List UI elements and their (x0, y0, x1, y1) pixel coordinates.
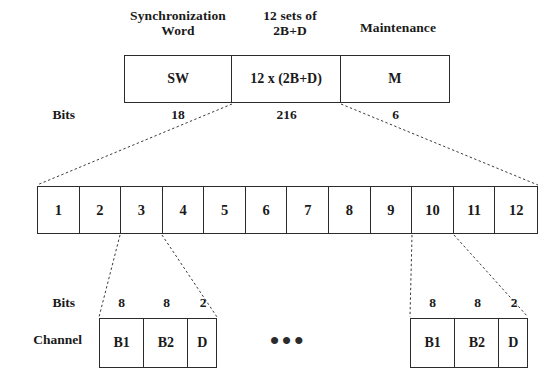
channel-cell-4: 4 (163, 187, 205, 233)
subframe-left-bits-b1: 8 (99, 295, 144, 311)
subframe-right: B1 B2 D (410, 318, 528, 368)
channel-cell-2: 2 (80, 187, 122, 233)
subframe-right-bits-d: 2 (500, 295, 528, 311)
channel-cell-3: 3 (121, 187, 163, 233)
bits-count-2bd: 216 (232, 107, 341, 123)
subframe-left-bits-d: 2 (189, 295, 217, 311)
channel-cell-12: 12 (495, 187, 537, 233)
subframe-left-cell-b1: B1 (100, 319, 144, 367)
label-bits-top: Bits (0, 107, 75, 123)
subframe-left-cell-b2: B2 (144, 319, 188, 367)
channel-cell-7: 7 (287, 187, 329, 233)
subframe-left-cell-d: D (188, 319, 216, 367)
bits-count-sw: 18 (124, 107, 232, 123)
label-12-sets-of-2bd: 12 sets of 2B+D (238, 8, 342, 38)
frame-cell-sw: SW (125, 56, 232, 102)
subframe-right-cell-b1: B1 (411, 319, 455, 367)
channel-cell-8: 8 (329, 187, 371, 233)
subframe-right-bits-b2: 8 (455, 295, 500, 311)
top-frame-row: SW 12 x (2B+D) M (124, 55, 450, 103)
subframe-right-cell-b2: B2 (455, 319, 499, 367)
channel-cell-11: 11 (454, 187, 496, 233)
subframe-left: B1 B2 D (99, 318, 217, 368)
subframe-left-bits-b2: 8 (144, 295, 189, 311)
channel-cell-5: 5 (204, 187, 246, 233)
bits-count-maintenance: 6 (341, 107, 450, 123)
frame-cell-maintenance: M (341, 56, 449, 102)
channel-cell-6: 6 (246, 187, 288, 233)
ellipsis-separator: ••• (270, 328, 306, 354)
channel-cell-9: 9 (371, 187, 413, 233)
label-channel: Channel (0, 332, 82, 348)
label-bits-bottom: Bits (0, 295, 75, 311)
subframe-right-cell-d: D (499, 319, 527, 367)
channel-row: 1 2 3 4 5 6 7 8 9 10 11 12 (37, 186, 538, 234)
channel-cell-1: 1 (38, 187, 80, 233)
frame-cell-2bd: 12 x (2B+D) (232, 56, 340, 102)
label-synchronization-word: Synchronization Word (118, 8, 238, 38)
subframe-right-bits-b1: 8 (410, 295, 455, 311)
label-maintenance: Maintenance (340, 20, 456, 35)
channel-cell-10: 10 (412, 187, 454, 233)
frame-structure-diagram: Synchronization Word 12 sets of 2B+D Mai… (0, 0, 559, 388)
